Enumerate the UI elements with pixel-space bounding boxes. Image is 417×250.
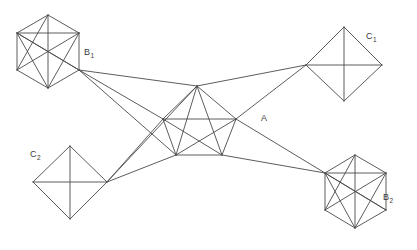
- graph-canvas: B1B2C1C2A: [0, 0, 417, 250]
- graph-figure: B1B2C1C2A: [0, 0, 417, 250]
- node-label-a: A: [261, 113, 267, 123]
